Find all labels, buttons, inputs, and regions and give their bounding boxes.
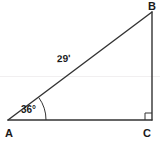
geometry-figure: B A C 29' 36° bbox=[0, 0, 160, 151]
triangle-drawing bbox=[0, 0, 160, 151]
right-angle-square-icon bbox=[145, 113, 152, 120]
angle-a-arc-icon bbox=[39, 98, 46, 120]
vertex-label-a: A bbox=[5, 128, 13, 139]
vertex-label-c: C bbox=[143, 128, 151, 139]
vertex-label-b: B bbox=[148, 1, 156, 12]
angle-a-measure-label: 36° bbox=[21, 105, 36, 115]
hypotenuse-measure-label: 29' bbox=[57, 54, 71, 64]
